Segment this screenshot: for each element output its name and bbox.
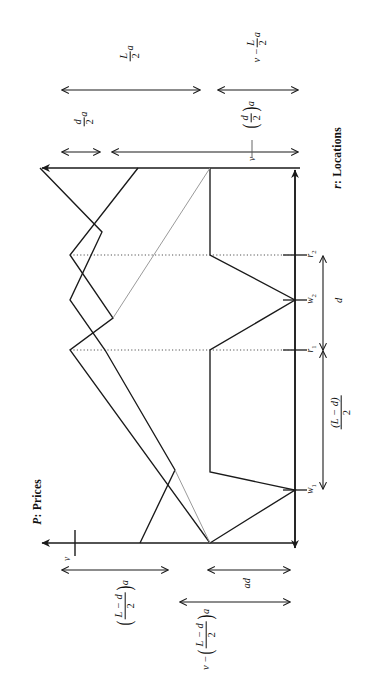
dim-label-ad: ad (242, 572, 253, 594)
location-axis-name: : Locations (331, 127, 343, 184)
tick-label-r1-base: r (305, 349, 315, 353)
dim-label-d: d (334, 291, 345, 309)
paren-open: ( (116, 621, 133, 626)
tick-label-w2-sub: 2 (310, 294, 317, 297)
price-schedules (40, 168, 295, 543)
bottom-dimension-arrows (62, 570, 290, 602)
price-axis-title: P: Prices (32, 472, 44, 532)
price-axis-name: : Prices (31, 479, 43, 517)
paren-close: ) (242, 107, 259, 112)
schedule-line-b (70, 168, 210, 543)
paren-close: ) (197, 615, 214, 620)
dim-label-L-minus-d-over-2: (L − d) 2 (330, 400, 353, 430)
dim-label-L-minus-d-over-2-a: ( L − d 2 )a (114, 570, 137, 636)
frac-den: 2 (342, 396, 353, 430)
paren-open: ( (242, 124, 259, 129)
location-axis-group (283, 170, 307, 548)
dim-label-v-minus-L-minus-d-over-2-a: v −( L − d 2 )a (195, 595, 218, 683)
tick-label-w1: w1 (306, 479, 318, 499)
dim-label-d-over-2-a: d 2 a (73, 105, 96, 133)
dim-label-v-minus-L-over-2-a: v − L 2 a (246, 27, 269, 67)
mul-a: a (200, 609, 211, 614)
frac-den: 2 (252, 113, 263, 122)
price-axis-group (42, 530, 296, 556)
tick-label-r2: r2 (306, 244, 318, 264)
price-axis-symbol: P (31, 517, 43, 524)
frac-den: 2 (85, 117, 96, 126)
tick-label-w1-sub: 1 (310, 484, 317, 487)
frac-L-over-2: L 2 (246, 38, 269, 48)
frac-L-minus-d-over-2: L − d 2 (195, 621, 218, 648)
frac-d-over-2: d 2 (240, 113, 263, 122)
tick-label-r2-base: r (305, 254, 315, 258)
mul-a: a (78, 112, 89, 117)
tick-label-w2: w2 (306, 289, 318, 309)
tick-label-r1-sub: 1 (310, 345, 317, 348)
frac-den: 2 (258, 38, 269, 48)
dim-label-L-over-2-a: L 2 a (119, 39, 142, 67)
faint-diagonal (113, 168, 210, 318)
frac-d-over-2: d 2 (73, 117, 96, 126)
schedule-line-c (210, 168, 295, 543)
tick-label-v-top: v (248, 151, 258, 167)
lead-v-minus: v − (200, 656, 211, 670)
location-axis-symbol: r (331, 184, 343, 189)
mul-a: a (251, 32, 262, 37)
frac-den: 2 (131, 51, 142, 61)
tick-label-v-bottom: v (63, 551, 73, 567)
dotted-guides (70, 255, 294, 350)
figure-root: P: Prices r: Locations r2 w2 r1 w1 v v d… (0, 0, 372, 696)
frac-L-minus-d-over-2: (L − d) 2 (330, 396, 353, 430)
frac-L-minus-d-over-2: L − d 2 (114, 592, 137, 619)
frac-L-over-2: L 2 (119, 51, 142, 61)
paren-open: ( (197, 650, 214, 655)
schedule-line-a (40, 168, 175, 543)
tick-label-r1: r1 (306, 339, 318, 359)
frac-den: 2 (207, 621, 218, 648)
dim-label-d-over-2-a-paren: ( d 2 )a (240, 92, 263, 138)
paren-close: ) (116, 586, 133, 591)
mul-a: a (124, 45, 135, 50)
tick-label-w2-base: w (305, 297, 315, 303)
frac-den: 2 (126, 592, 137, 619)
top-dimension-arrows (62, 90, 298, 158)
tick-label-w1-base: w (305, 487, 315, 493)
lead-v-minus: v − (251, 48, 262, 62)
faint-short-diagonal (175, 470, 210, 543)
construction-lines (113, 168, 210, 543)
location-axis-title: r: Locations (332, 120, 344, 196)
tick-label-r2-sub: 2 (310, 250, 317, 253)
